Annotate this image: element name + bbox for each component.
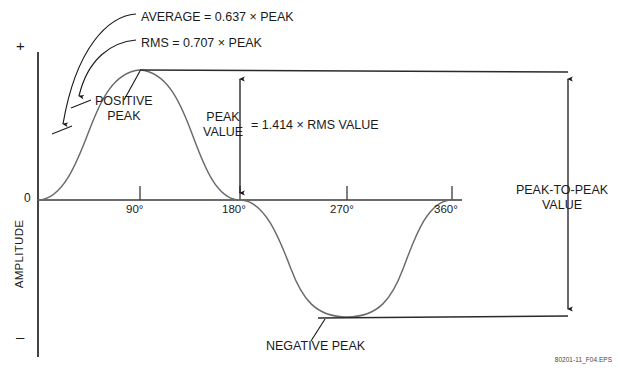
rms-tick-mark xyxy=(71,100,91,108)
y-axis-negative-sign: – xyxy=(16,328,24,346)
positive-peak-label-line2: PEAK xyxy=(107,109,140,123)
peak-to-peak-label-line2: VALUE xyxy=(542,198,582,212)
rms-annotation-label: RMS = 0.707 × PEAK xyxy=(141,36,262,51)
positive-peak-reference-line xyxy=(140,70,568,72)
peak-value-label-line2: VALUE xyxy=(203,125,243,139)
y-axis-zero-label: 0 xyxy=(24,191,31,205)
negative-peak-leader-line xyxy=(311,319,325,341)
y-axis-title: AMPLITUDE xyxy=(13,214,25,294)
x-tick-label-360: 360° xyxy=(434,203,458,217)
positive-peak-label-line1: POSITIVE xyxy=(95,94,153,108)
x-tick-label-90: 90° xyxy=(126,203,143,217)
peak-value-label: PEAK VALUE xyxy=(203,110,243,140)
x-tick-label-180: 180° xyxy=(222,203,246,217)
peak-to-peak-label-line1: PEAK-TO-PEAK xyxy=(516,183,608,197)
figure-source-code: 80201-11_F04.EPS xyxy=(555,356,612,363)
peak-to-peak-label: PEAK-TO-PEAK VALUE xyxy=(510,183,614,213)
peak-value-label-line1: PEAK xyxy=(206,110,239,124)
positive-peak-label: POSITIVE PEAK xyxy=(95,94,153,124)
average-tick-mark xyxy=(52,126,72,134)
y-axis-positive-sign: + xyxy=(16,37,25,55)
average-annotation-label: AVERAGE = 0.637 × PEAK xyxy=(141,10,294,25)
negative-peak-label: NEGATIVE PEAK xyxy=(266,339,365,354)
peak-value-equation-label: = 1.414 × RMS VALUE xyxy=(251,118,379,133)
x-tick-label-270: 270° xyxy=(330,203,354,217)
x-axis-ticks xyxy=(140,186,452,200)
